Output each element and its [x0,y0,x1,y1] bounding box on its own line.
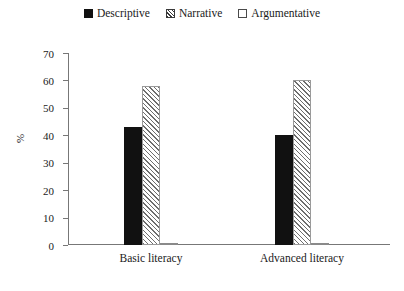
y-axis-tick-label: 10 [43,212,54,224]
y-axis-tick-label: 20 [43,185,54,197]
y-axis-tick-label: 70 [43,48,54,60]
y-axis-title: % [14,134,26,143]
x-axis-group-label: Advanced literacy [260,252,344,264]
legend-label-argumentative: Argumentative [251,8,320,20]
legend-item-narrative: Narrative [166,8,222,20]
x-axis-group-label: Basic literacy [120,252,183,264]
plot-area: 010203040506070 Basic literacyAdvanced l… [68,53,390,245]
legend-item-argumentative: Argumentative [238,8,320,20]
y-axis-tick: 60 [63,80,68,81]
y-axis-tick: 30 [63,163,68,164]
bar-argumentative [160,243,178,245]
y-axis-tick-label: 40 [43,130,54,142]
y-axis-tick: 50 [63,108,68,109]
y-axis-tick: 70 [63,53,68,54]
x-axis-line [68,244,390,245]
chart-legend: Descriptive Narrative Argumentative [0,8,404,20]
legend-item-descriptive: Descriptive [84,8,150,20]
y-axis-tick: 40 [63,135,68,136]
bar-group-bars [275,53,329,245]
hatched-square-icon [166,9,175,18]
bar-group [124,53,178,245]
y-axis-tick: 10 [63,218,68,219]
y-axis-tick-label: 0 [49,240,55,252]
bar-narrative [293,80,311,245]
bar-group [275,53,329,245]
y-axis-tick: 20 [63,190,68,191]
legend-label-descriptive: Descriptive [97,8,150,20]
y-axis-tick-label: 60 [43,75,54,87]
bar-group-bars [124,53,178,245]
y-axis-tick-label: 50 [43,102,54,114]
legend-label-narrative: Narrative [179,8,222,20]
y-axis-line [68,53,69,245]
empty-square-icon [238,9,247,18]
bar-descriptive [275,135,293,245]
bar-narrative [142,86,160,245]
y-axis-tick: 0 [63,245,68,246]
bar-chart-figure: Descriptive Narrative Argumentative % 01… [0,0,404,291]
solid-black-square-icon [84,9,93,18]
bar-argumentative [311,243,329,245]
bar-descriptive [124,127,142,245]
y-axis-tick-label: 30 [43,157,54,169]
